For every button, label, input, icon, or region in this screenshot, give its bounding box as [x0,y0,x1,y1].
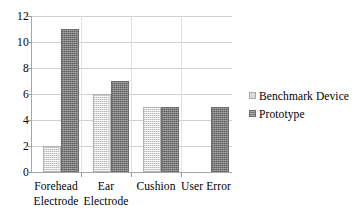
y-axis-tick-label-0: 0 [1,167,29,179]
plot-area [31,16,232,173]
x-axis-tick-mark-3 [181,173,182,177]
y-axis-tick-label-12: 12 [1,11,29,23]
x-axis-label-forehead-electrode-line1: Forehead [34,180,78,192]
x-axis-label-user-error-line1: User Error [181,180,231,192]
x-axis-label-cushion: Cushion [131,179,181,194]
chart-legend: Benchmark Device Prototype [249,88,349,124]
x-axis-label-ear-electrode-line2: Electrode [81,194,131,209]
x-axis-label-user-error: User Error [180,179,232,194]
y-axis-tick-label-10: 10 [1,37,29,49]
x-axis-label-forehead-electrode: Forehead Electrode [31,179,81,209]
legend-item-benchmark-device: Benchmark Device [249,88,349,103]
legend-label-benchmark-device: Benchmark Device [259,90,349,102]
legend-label-prototype: Prototype [259,108,305,120]
bar-chart: 12 10 8 6 4 2 0 [0,0,364,216]
legend-swatch-prototype-icon [249,110,256,117]
x-axis-label-forehead-electrode-line2: Electrode [31,194,81,209]
x-axis-label-ear-electrode-line1: Ear [98,180,114,192]
x-axis-label-ear-electrode: Ear Electrode [81,179,131,209]
y-axis-tick-label-4: 4 [1,115,29,127]
x-axis-tick-mark-2 [131,173,132,177]
plot-frame [31,16,232,173]
y-axis-tick-label-2: 2 [1,141,29,153]
x-axis-label-cushion-line1: Cushion [136,180,175,192]
legend-swatch-benchmark-device-icon [249,92,256,99]
x-axis-tick-mark-1 [81,173,82,177]
y-axis-tick-label-8: 8 [1,63,29,75]
y-axis-tick-label-6: 6 [1,89,29,101]
legend-item-prototype: Prototype [249,106,349,121]
